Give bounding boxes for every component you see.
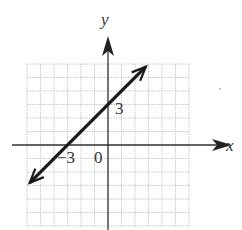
stray-dot [219, 88, 221, 90]
coordinate-plane: y x 3 −3 0 [0, 0, 242, 230]
x-axis [12, 139, 232, 151]
x-intercept-label: −3 [57, 148, 75, 167]
series-line [30, 67, 146, 183]
y-axis-label: y [99, 10, 109, 29]
x-axis-label: x [225, 136, 234, 155]
data-line [30, 67, 146, 183]
y-axis [102, 36, 114, 230]
origin-label: 0 [94, 148, 103, 167]
y-intercept-label: 3 [115, 99, 124, 118]
